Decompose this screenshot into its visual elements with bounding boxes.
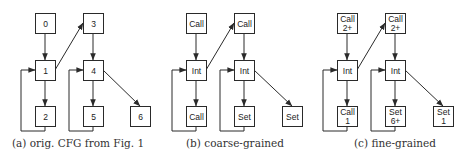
edge-c4-to-c6 [405, 70, 443, 106]
node-a2: 2 [36, 107, 56, 127]
node-a0: 0 [36, 14, 56, 34]
caption-panel-a: (a) orig. CFG from Fig. 1 [12, 137, 144, 149]
edge-a1-to-a3 [55, 23, 83, 70]
node-label: Set [286, 112, 299, 122]
node-label: 6 [138, 112, 143, 122]
edge-b4-to-b6 [254, 70, 292, 106]
node-label: 4 [91, 66, 96, 76]
node-b3: Call [235, 14, 255, 34]
node-label: 5 [91, 112, 96, 122]
edge-a4-to-a6 [103, 70, 140, 106]
node-label: 2 [43, 112, 48, 122]
node-b1: Int [187, 61, 207, 81]
node-c1: Int [338, 61, 358, 81]
node-a3: 3 [84, 14, 104, 34]
node-label: Int [391, 66, 401, 76]
edge-c1-to-c3 [357, 23, 385, 70]
node-label: Set [238, 112, 251, 122]
node-c4: Int [386, 61, 406, 81]
node-c5: Set6+ [386, 107, 406, 127]
caption-panel-c: (c) fine-grained [354, 137, 436, 149]
node-c3: Call2+ [386, 14, 406, 34]
node-a1: 1 [36, 61, 56, 81]
node-label: Int [240, 66, 250, 76]
node-label: 1 [43, 66, 48, 76]
node-label: 1 [441, 116, 446, 126]
edge-b1-to-b3 [206, 23, 234, 70]
caption-panel-b: (b) coarse-grained [186, 137, 284, 149]
node-label: 1 [345, 116, 350, 126]
node-label: Int [343, 66, 353, 76]
node-label: Call [189, 19, 204, 29]
node-b2: Call [187, 107, 207, 127]
node-label: 0 [43, 19, 48, 29]
node-a4: 4 [84, 61, 104, 81]
node-c2: Call1 [338, 107, 358, 127]
node-b0: Call [187, 14, 207, 34]
node-a6: 6 [131, 107, 151, 127]
node-label: 2+ [343, 23, 353, 33]
node-label: 3 [91, 19, 96, 29]
nodes-layer: 0123456CallIntCallCallIntSetSetCall2+Int… [36, 14, 454, 127]
node-label: 6+ [391, 116, 401, 126]
node-label: Call [237, 19, 252, 29]
node-a5: 5 [84, 107, 104, 127]
node-c0: Call2+ [338, 14, 358, 34]
node-b5: Set [235, 107, 255, 127]
node-label: Int [192, 66, 202, 76]
node-label: Call [189, 112, 204, 122]
cfg-figure: 0123456CallIntCallCallIntSetSetCall2+Int… [0, 0, 471, 161]
node-c6: Set1 [434, 107, 454, 127]
node-b4: Int [235, 61, 255, 81]
captions-layer: (a) orig. CFG from Fig. 1(b) coarse-grai… [12, 137, 436, 149]
node-b6: Set [283, 107, 303, 127]
node-label: 2+ [391, 23, 401, 33]
